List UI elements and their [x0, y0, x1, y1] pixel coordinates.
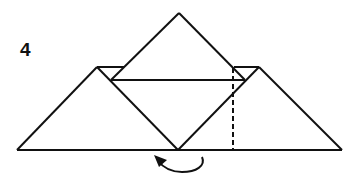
right-triangle-outer-edge: [259, 67, 342, 150]
diamond-left-edge: [111, 13, 179, 80]
left-triangle-outer-edge: [17, 67, 97, 150]
turn-arrow-icon: [154, 155, 203, 172]
origami-step-diagram: 4: [0, 0, 357, 179]
diamond-right-edge: [179, 13, 245, 80]
fold-diagram: [0, 0, 357, 179]
